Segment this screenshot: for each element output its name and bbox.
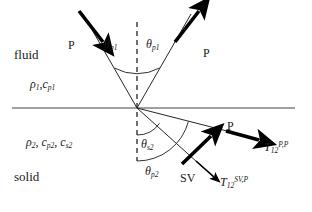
theta-p1-reflected-sub: p1: [152, 43, 160, 52]
theta-p2-sub: p2: [151, 170, 159, 179]
figure-canvas: fluid ρ1,cp1 ρ2, cp2, cs2 solid P θp1 θp…: [0, 0, 312, 212]
tpp-symbol: T: [264, 140, 271, 154]
transmitted-p-label: P: [227, 120, 234, 132]
lower-medium-label: solid: [14, 170, 39, 183]
reflected-p-arrow: [175, 11, 199, 42]
lower-medium-properties: ρ2, cp2, cs2: [26, 136, 72, 150]
wave-interface-diagram: [0, 0, 312, 212]
theta-p1-incident-sub: p1: [110, 43, 118, 52]
sv-polarization-arrow: [182, 136, 211, 164]
transmission-coefficient-pp: T12P,P: [264, 141, 288, 155]
upper-medium-label: fluid: [14, 48, 39, 61]
reflected-p-label: P: [203, 47, 210, 59]
incident-p-label: P: [68, 39, 75, 51]
tsvp-sup: SV,P: [234, 175, 248, 184]
incident-p-arrow: [79, 11, 103, 42]
upper-medium-properties: ρ1,cp1: [30, 78, 55, 92]
theta-p1-reflected-label: θp1: [146, 38, 159, 52]
upper-speed-sub: p1: [48, 83, 56, 92]
theta-s2-sub: s2: [147, 143, 154, 152]
lower-speed-s-sub: s2: [66, 141, 73, 150]
theta-s2-label: θs2: [141, 138, 154, 152]
tsvp-symbol: T: [220, 175, 227, 189]
theta-p1-incident-label: θp1: [104, 38, 117, 52]
transmitted-sv-arrowhead: [196, 161, 214, 177]
theta-p2-label: θp2: [145, 165, 158, 179]
transmitted-sv-label: SV: [180, 172, 195, 184]
tpp-sup: P,P: [278, 140, 288, 149]
transmission-coefficient-svp: T12SV,P: [220, 176, 248, 190]
reflected-p-ray: [137, 14, 191, 108]
